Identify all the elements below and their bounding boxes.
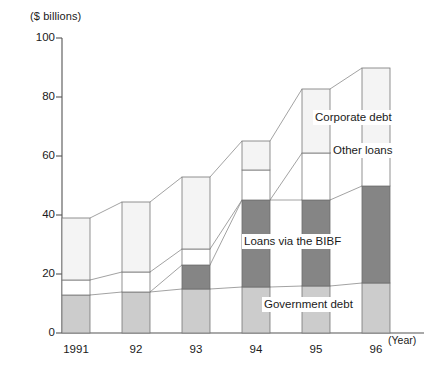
x-tick-label-92: 92 [116, 343, 156, 355]
series-annotation-loans-via-bibf: Loans via the BIBF [242, 234, 343, 249]
x-tick-label-95: 95 [296, 343, 336, 355]
plot-area [0, 0, 440, 371]
x-tick-label-93: 93 [176, 343, 216, 355]
bar-group-93[interactable] [182, 177, 210, 333]
x-tick-label-94: 94 [236, 343, 276, 355]
bar-group-92[interactable] [122, 202, 150, 333]
series-annotation-government-debt: Government debt [262, 297, 355, 312]
bar-group-96[interactable] [362, 68, 390, 333]
series-annotation-corporate-debt: Corporate debt [313, 110, 394, 125]
stacked-bar-chart: ($ billions) 100 80 60 40 20 0 [0, 0, 440, 371]
x-tick-label-1991: 1991 [56, 343, 96, 355]
series-annotation-other-loans: Other loans [331, 143, 394, 158]
bar-group-1991[interactable] [62, 218, 90, 333]
x-axis-unit-caption: (Year) [388, 334, 416, 346]
